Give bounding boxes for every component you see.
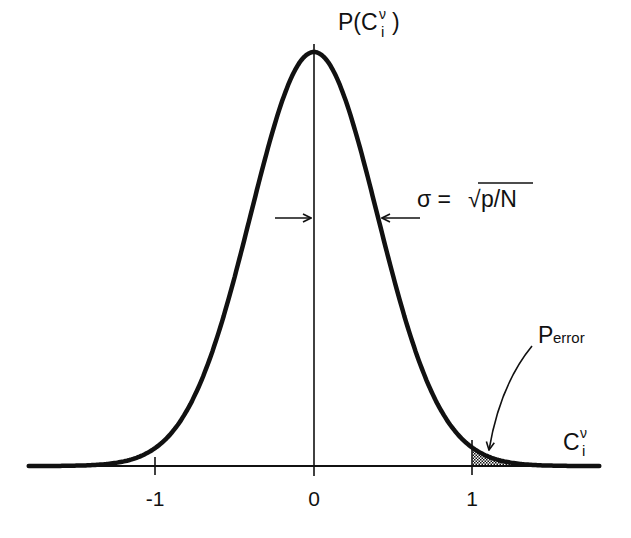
y-label-sup: ν xyxy=(379,6,386,22)
x-label-sub: i xyxy=(582,442,585,459)
y-label-main: P(C xyxy=(338,9,378,35)
x-axis-label: C ν i xyxy=(563,425,587,459)
perror-main: P xyxy=(538,322,553,348)
sigma-formula: σ = √ p/N xyxy=(417,183,533,212)
perror-sub: error xyxy=(553,329,585,346)
perror-label: P error xyxy=(538,322,585,348)
gaussian-diagram: -1 0 1 P(C ν i ) σ = √ p/N P error C ν i xyxy=(0,0,631,538)
tick-label-1: 1 xyxy=(466,487,478,510)
perror-arrow xyxy=(489,346,532,450)
y-label-close: ) xyxy=(392,9,400,35)
y-axis-label: P(C ν i ) xyxy=(338,6,400,40)
tick-label-minus-1: -1 xyxy=(146,487,165,510)
tick-label-0: 0 xyxy=(308,487,320,510)
x-label-main: C xyxy=(563,429,580,455)
sigma-lhs: σ = xyxy=(417,186,451,212)
x-label-sup: ν xyxy=(580,425,587,441)
y-label-sub: i xyxy=(381,23,384,40)
sqrt-symbol: √ xyxy=(468,186,481,212)
sigma-radicand: p/N xyxy=(481,186,517,212)
